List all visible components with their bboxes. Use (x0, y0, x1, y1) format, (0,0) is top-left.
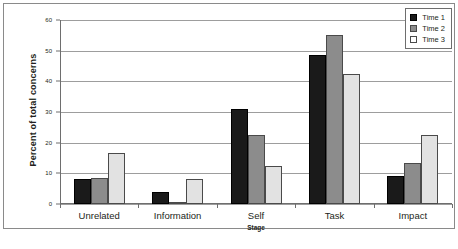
bar (343, 74, 360, 204)
x-axis-tick-label: Impact (374, 210, 452, 221)
bar (309, 55, 326, 204)
y-axis-tick-label: 20 (45, 140, 52, 146)
y-axis-tick-label: 50 (45, 48, 52, 54)
y-axis-tick-label: 40 (45, 78, 52, 84)
bar-group (60, 20, 138, 204)
y-axis-tick-label: 30 (45, 109, 52, 115)
legend-label: Time 2 (422, 24, 445, 33)
x-axis-tick-label: Task (295, 210, 373, 221)
x-axis-tick-label: Information (138, 210, 216, 221)
x-axis-labels: UnrelatedInformationSelfTaskImpact (60, 210, 452, 221)
bar (186, 179, 203, 204)
x-axis-tick-mark (295, 204, 296, 208)
bar (387, 176, 404, 204)
legend-swatch-icon (410, 14, 417, 21)
bar (152, 192, 169, 204)
bar (248, 135, 265, 204)
bar (108, 153, 125, 204)
bar (74, 179, 91, 204)
legend-item: Time 2 (410, 23, 445, 34)
bar-group (295, 20, 373, 204)
x-axis-tick-label: Unrelated (60, 210, 138, 221)
bar (404, 163, 421, 204)
bar-group (138, 20, 216, 204)
y-axis-tick-label: 0 (49, 201, 52, 207)
y-axis-tick-label: 10 (45, 170, 52, 176)
plot-area (60, 20, 452, 204)
bar (169, 202, 186, 204)
x-axis-tick-mark (60, 204, 61, 208)
x-axis-tick-mark (217, 204, 218, 208)
legend-label: Time 1 (422, 13, 445, 22)
bar (421, 135, 438, 204)
bar (91, 178, 108, 204)
chart-legend: Time 1Time 2Time 3 (405, 8, 452, 49)
bar-chart: Percent of total concerns 0102030405060 … (0, 0, 458, 249)
x-axis-tick-mark (374, 204, 375, 208)
y-axis-tick-label: 60 (45, 17, 52, 23)
bar (326, 35, 343, 204)
x-axis-title: Stage (60, 224, 452, 231)
x-axis-tick-mark (138, 204, 139, 208)
bar (231, 109, 248, 204)
x-axis-tick-mark (452, 204, 453, 208)
legend-swatch-icon (410, 25, 417, 32)
x-axis-tick-label: Self (217, 210, 295, 221)
legend-label: Time 3 (422, 35, 445, 44)
legend-item: Time 3 (410, 34, 445, 45)
gridline (60, 204, 452, 205)
bar-groups (60, 20, 452, 204)
legend-item: Time 1 (410, 12, 445, 23)
y-axis-ticks: 0102030405060 (0, 20, 58, 204)
legend-swatch-icon (410, 36, 417, 43)
bar-group (217, 20, 295, 204)
bar (265, 166, 282, 204)
